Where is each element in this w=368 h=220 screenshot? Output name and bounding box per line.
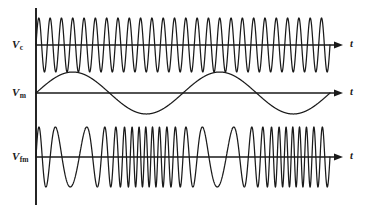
fm-time-axis-label: t [350, 151, 353, 162]
carrier-label-text: V [12, 38, 19, 50]
modulating-label-subscript: m [20, 91, 26, 100]
fm-output-signal-label: Vfm [12, 151, 28, 162]
fm-label-subscript: fm [20, 155, 29, 164]
modulating-axis-arrowhead [334, 90, 343, 97]
panel-modulating [36, 72, 343, 114]
panel-fm-output [36, 127, 343, 187]
modulating-signal-label: Vm [12, 87, 26, 98]
fm-waveform-figure: Vc Vm Vfm t t t [0, 0, 368, 220]
modulating-label-text: V [12, 86, 19, 98]
fm-label-text: V [12, 150, 19, 162]
fm-axis-arrowhead [334, 154, 343, 161]
carrier-time-axis-label: t [350, 39, 353, 50]
modulating-time-axis-label: t [350, 87, 353, 98]
carrier-label-subscript: c [20, 43, 23, 52]
carrier-signal-label: Vc [12, 39, 23, 50]
carrier-axis-arrowhead [334, 42, 343, 49]
waveform-canvas [0, 0, 368, 220]
panel-carrier [36, 18, 343, 72]
